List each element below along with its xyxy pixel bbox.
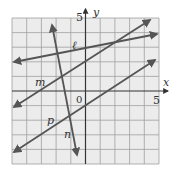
x-axis-label: x [163,76,170,89]
y-tick-5: 5 [76,11,83,24]
y-axis-label: y [92,6,100,19]
origin-label: 0 [76,94,82,105]
coordinate-plane: x y 5 5 0 ℓ m n p [0,0,178,174]
line-m-label: m [35,76,45,89]
line-n-label: n [64,128,71,141]
x-tick-5: 5 [153,94,160,107]
line-p-label: p [47,114,54,127]
line-l-label: ℓ [72,39,77,52]
